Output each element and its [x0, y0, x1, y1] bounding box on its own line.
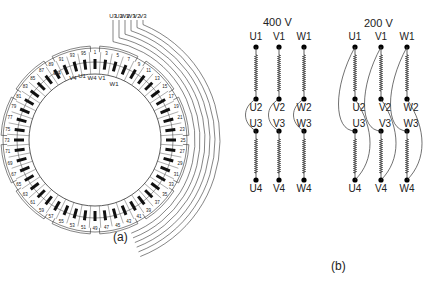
coil-winding: [255, 139, 258, 173]
terminal-label-w2: W2: [404, 102, 419, 113]
terminal-label-v3: V3: [379, 118, 392, 129]
terminal-label-u4: U4: [349, 183, 362, 194]
terminal-label-v2: V2: [379, 102, 392, 113]
coil-winding: [278, 139, 281, 173]
coil-winding: [354, 55, 357, 91]
terminal-label-u2: U2: [250, 102, 263, 113]
coil-winding: [278, 55, 281, 91]
coil-winding: [406, 55, 409, 91]
terminal-label-v1: V1: [375, 31, 388, 42]
coil-winding: [303, 55, 306, 91]
terminal-label-w3: W3: [404, 118, 419, 129]
coil-winding: [380, 139, 383, 173]
terminal-label-w1: W1: [297, 31, 312, 42]
coil-winding: [380, 55, 383, 91]
caption-a: (a): [113, 230, 128, 244]
terminal-label-u2: U2: [353, 102, 366, 113]
coil-winding: [255, 55, 258, 91]
title-400v: 400 V: [263, 16, 292, 28]
terminal-dot: [301, 177, 306, 182]
winding-diagram: 1357911131517192123252729313335373941434…: [0, 0, 431, 282]
terminal-label-u3: U3: [250, 118, 263, 129]
terminal-label-u1: U1: [250, 31, 263, 42]
terminal-dot: [276, 177, 281, 182]
connection-schematics: U1U2U3U4V1V2V3V4W1W2W3W4U1U2U3U4V1V2V3V4…: [0, 0, 431, 282]
terminal-label-w4: W4: [400, 183, 415, 194]
terminal-dot: [253, 177, 258, 182]
coil-winding: [354, 139, 357, 173]
terminal-label-v2: V2: [273, 102, 286, 113]
terminal-label-w4: W4: [297, 183, 312, 194]
terminal-label-v4: V4: [375, 183, 388, 194]
terminal-label-u4: U4: [250, 183, 263, 194]
terminal-label-w2: W2: [297, 102, 312, 113]
terminal-label-v4: V4: [273, 183, 286, 194]
coil-winding: [406, 139, 409, 173]
terminal-label-w1: W1: [400, 31, 415, 42]
coil-winding: [303, 139, 306, 173]
title-200v: 200 V: [364, 17, 393, 29]
terminal-label-v1: V1: [273, 31, 286, 42]
terminal-label-u3: U3: [353, 118, 366, 129]
terminal-label-u1: U1: [349, 31, 362, 42]
terminal-label-v3: V3: [273, 118, 286, 129]
caption-b: (b): [331, 259, 346, 273]
